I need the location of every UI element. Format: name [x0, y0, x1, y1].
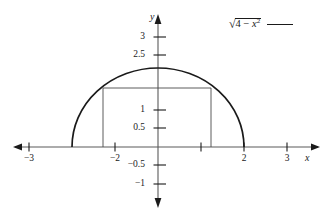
y-axis-ticks	[154, 37, 167, 184]
y-tick-label-0p5: 0.5	[133, 123, 145, 133]
x-tick-label-neg3: −3	[24, 154, 34, 164]
plot-canvas	[0, 0, 333, 217]
inscribed-rectangle	[103, 88, 211, 147]
x-axis	[13, 144, 320, 151]
y-tick-label-neg1: −1	[135, 179, 145, 189]
y-axis	[155, 14, 162, 208]
y-axis-bottom-arrow-icon	[155, 198, 162, 208]
x-axis-name: x	[305, 153, 309, 163]
y-tick-label-neg0p5: −0.5	[128, 160, 145, 170]
radical-expression: √4 − x2	[228, 18, 261, 30]
legend: √4 − x2	[228, 18, 293, 30]
x-tick-label-neg2: −2	[110, 154, 120, 164]
radicand: 4 − x2	[235, 18, 262, 30]
x-axis-left-arrow-icon	[13, 144, 22, 151]
legend-line-swatch	[267, 24, 293, 25]
figure-container: 3 2.5 1 0.5 −0.5 −1 −3 −2 2 3 y x √4 − x…	[0, 0, 333, 217]
radicand-exponent: 2	[257, 17, 261, 25]
x-tick-label-2: 2	[242, 154, 247, 164]
radicand-prefix: 4 −	[236, 18, 252, 29]
y-axis-name: y	[150, 12, 154, 22]
x-axis-right-arrow-icon	[311, 144, 320, 151]
y-axis-top-arrow-icon	[155, 14, 162, 24]
y-tick-label-2p5: 2.5	[133, 50, 145, 60]
y-tick-label-1: 1	[140, 105, 145, 115]
x-tick-label-3: 3	[285, 154, 290, 164]
y-tick-label-3: 3	[140, 32, 145, 42]
legend-label: √4 − x2	[228, 18, 261, 30]
